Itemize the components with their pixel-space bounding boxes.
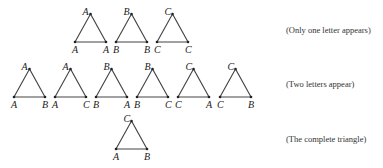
triangle-edges: [178, 69, 209, 97]
vertex-dot: [146, 148, 149, 151]
left-label: A: [112, 151, 120, 162]
triangle: CCA: [175, 61, 213, 110]
triangle-edges: [157, 14, 188, 42]
apex-label: B: [145, 61, 151, 72]
vertex-dot: [110, 68, 113, 71]
triangle-diagram: AAABBBCCCAABAACBBABBCCCACCBCAB(Only one …: [0, 0, 383, 168]
left-label: C: [154, 44, 161, 55]
vertex-dot: [146, 41, 149, 44]
right-label: B: [248, 99, 254, 110]
triangle: CCC: [154, 6, 192, 55]
apex-label: A: [62, 61, 70, 72]
vertex-dot: [95, 96, 98, 99]
apex-label: B: [104, 61, 110, 72]
right-label: A: [102, 44, 110, 55]
vertex-dot: [136, 96, 139, 99]
triangle: CAB: [112, 113, 150, 162]
triangle-edges: [220, 69, 251, 97]
vertex-dot: [167, 96, 170, 99]
caption-row2: (Two letters appear): [286, 79, 354, 89]
triangle: BBB: [113, 6, 150, 55]
apex-label: C: [228, 61, 235, 72]
vertex-dot: [115, 41, 118, 44]
vertex-dot: [234, 68, 237, 71]
right-label: A: [123, 99, 131, 110]
caption-row1: (Only one letter appears): [286, 25, 371, 35]
left-label: B: [93, 99, 99, 110]
left-label: C: [217, 99, 224, 110]
vertex-dot: [219, 96, 222, 99]
vertex-dot: [156, 41, 159, 44]
apex-label: C: [165, 6, 172, 17]
vertex-dot: [69, 68, 72, 71]
triangle-edges: [116, 121, 147, 149]
vertex-dot: [187, 41, 190, 44]
left-label: B: [113, 44, 119, 55]
vertex-dot: [177, 96, 180, 99]
vertex-dot: [44, 96, 47, 99]
triangle: CCB: [217, 61, 254, 110]
vertex-dot: [54, 96, 57, 99]
vertex-dot: [105, 41, 108, 44]
triangle-edges: [116, 14, 147, 42]
row-one-letter: AAABBBCCC: [71, 6, 192, 55]
triangle: BBA: [93, 61, 131, 110]
vertex-dot: [250, 96, 253, 99]
right-label: B: [144, 44, 150, 55]
right-label: A: [205, 99, 213, 110]
left-label: A: [71, 44, 79, 55]
vertex-dot: [130, 120, 133, 123]
left-label: C: [175, 99, 182, 110]
left-label: A: [10, 99, 18, 110]
triangle: BBC: [134, 61, 172, 110]
left-label: A: [51, 99, 59, 110]
right-label: B: [42, 99, 48, 110]
vertex-dot: [28, 68, 31, 71]
right-label: C: [185, 44, 192, 55]
vertex-dot: [115, 148, 118, 151]
apex-label: C: [124, 113, 131, 124]
right-label: C: [165, 99, 172, 110]
apex-label: A: [21, 61, 29, 72]
vertex-dot: [171, 13, 174, 16]
triangle: AAC: [51, 61, 90, 110]
apex-label: A: [82, 6, 90, 17]
right-label: C: [83, 99, 90, 110]
caption-row3: (The complete triangle): [286, 134, 366, 144]
left-label: B: [134, 99, 140, 110]
vertex-dot: [74, 41, 77, 44]
triangle: AAA: [71, 6, 110, 55]
apex-label: B: [124, 6, 130, 17]
triangle-edges: [75, 14, 106, 42]
triangle-edges: [55, 69, 86, 97]
vertex-dot: [208, 96, 211, 99]
triangle-edges: [96, 69, 127, 97]
vertex-dot: [13, 96, 16, 99]
vertex-dot: [89, 13, 92, 16]
triangle-edges: [137, 69, 168, 97]
row-complete: CAB: [112, 113, 150, 162]
vertex-dot: [151, 68, 154, 71]
apex-label: C: [186, 61, 193, 72]
row-two-letters: AABAACBBABBCCCACCB: [10, 61, 254, 110]
triangle-edges: [14, 69, 45, 97]
vertex-dot: [130, 13, 133, 16]
right-label: B: [144, 151, 150, 162]
triangle: AAB: [10, 61, 48, 110]
vertex-dot: [126, 96, 129, 99]
vertex-dot: [192, 68, 195, 71]
vertex-dot: [85, 96, 88, 99]
